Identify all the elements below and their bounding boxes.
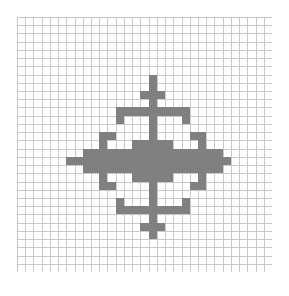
filled-cell	[140, 91, 149, 99]
filled-cell	[124, 206, 132, 214]
filled-cell	[182, 198, 190, 206]
filled-cell	[149, 124, 157, 132]
filled-cell	[107, 157, 116, 165]
pattern-shape	[17, 17, 272, 272]
filled-cell	[149, 198, 157, 206]
filled-cell	[190, 165, 198, 173]
filled-cell	[132, 157, 140, 165]
filled-cell	[173, 157, 182, 165]
filled-cell	[165, 206, 173, 214]
filled-cell	[182, 165, 190, 173]
filled-cell	[190, 157, 198, 165]
filled-cell	[157, 149, 165, 157]
filled-cell	[149, 165, 157, 173]
filled-cell	[157, 173, 165, 182]
filled-cell	[116, 157, 124, 165]
filled-cell	[214, 165, 223, 173]
filled-cell	[173, 206, 182, 214]
filled-cell	[140, 165, 149, 173]
filled-cell	[140, 140, 149, 149]
filled-cell	[149, 157, 157, 165]
filled-cell	[91, 157, 99, 165]
filled-cell	[198, 157, 206, 165]
filled-cell	[140, 173, 149, 182]
filled-cell	[149, 182, 157, 190]
filled-cell	[165, 157, 173, 165]
filled-cell	[99, 182, 107, 190]
filled-cell	[173, 149, 182, 157]
filled-cell	[190, 182, 198, 190]
filled-cell	[132, 140, 140, 149]
filled-cell	[132, 206, 140, 214]
filled-cell	[149, 223, 157, 231]
filled-cell	[99, 140, 107, 149]
filled-cell	[116, 198, 124, 206]
filled-cell	[182, 206, 190, 214]
filled-cell	[190, 149, 198, 157]
filled-cell	[140, 107, 149, 116]
filled-cell	[198, 165, 206, 173]
filled-cell	[99, 149, 107, 157]
filled-cell	[99, 165, 107, 173]
filled-cell	[116, 206, 124, 214]
filled-cell	[223, 157, 231, 165]
filled-cell	[140, 157, 149, 165]
filled-cell	[116, 165, 124, 173]
filled-cell	[107, 165, 116, 173]
filled-cell	[149, 149, 157, 157]
filled-cell	[124, 157, 132, 165]
filled-cell	[107, 182, 116, 190]
filled-cell	[124, 107, 132, 116]
filled-cell	[140, 206, 149, 214]
filled-cell	[198, 140, 206, 149]
filled-cell	[165, 149, 173, 157]
filled-cell	[157, 165, 165, 173]
filled-cell	[83, 157, 91, 165]
filled-cell	[157, 157, 165, 165]
filled-cell	[149, 116, 157, 124]
filled-cell	[107, 149, 116, 157]
filled-cell	[165, 173, 173, 182]
filled-cell	[198, 132, 206, 140]
filled-cell	[214, 157, 223, 165]
filled-cell	[157, 206, 165, 214]
filled-cell	[149, 231, 157, 239]
filled-cell	[165, 140, 173, 149]
filled-cell	[66, 157, 75, 165]
filled-cell	[165, 165, 173, 173]
filled-cell	[157, 223, 165, 231]
filled-cell	[165, 107, 173, 116]
filled-cell	[116, 107, 124, 116]
filled-cell	[132, 107, 140, 116]
filled-cell	[83, 149, 91, 157]
filled-cell	[99, 132, 107, 140]
filled-cell	[149, 206, 157, 214]
filled-cell	[149, 190, 157, 198]
filled-cell	[75, 157, 83, 165]
filled-cell	[83, 165, 91, 173]
filled-cell	[132, 173, 140, 182]
filled-cell	[182, 107, 190, 116]
filled-cell	[149, 173, 157, 182]
filled-cell	[198, 182, 206, 190]
filled-cell	[132, 149, 140, 157]
filled-cell	[132, 165, 140, 173]
filled-cell	[190, 132, 198, 140]
figure-canvas	[0, 0, 289, 296]
filled-cell	[182, 149, 190, 157]
filled-cell	[149, 75, 157, 83]
filled-cell	[116, 116, 124, 124]
filled-cell	[206, 157, 214, 165]
filled-cell	[149, 132, 157, 140]
filled-cell	[140, 223, 149, 231]
filled-cell	[107, 132, 116, 140]
filled-cell	[149, 140, 157, 149]
filled-cell	[149, 83, 157, 91]
filled-cell	[157, 140, 165, 149]
filled-cell	[149, 214, 157, 223]
grid-area	[17, 17, 272, 272]
filled-cell	[206, 165, 214, 173]
filled-cell	[157, 107, 165, 116]
filled-cell	[124, 149, 132, 157]
filled-cell	[149, 99, 157, 107]
